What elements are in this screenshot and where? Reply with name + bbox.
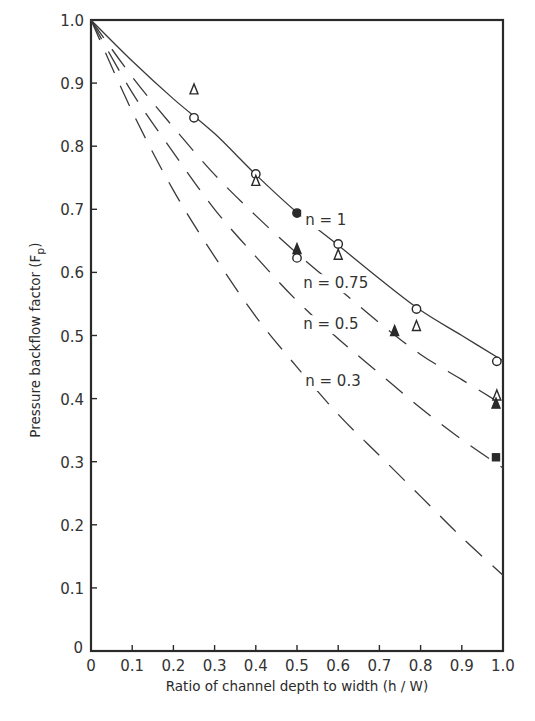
y-tick-label: 0.7 — [60, 201, 84, 219]
x-axis-title: Ratio of channel depth to width (h / W) — [166, 678, 428, 694]
curve-label: n = 0.75 — [303, 274, 368, 292]
open-triangle-marker — [190, 84, 198, 94]
x-axis-ticks: 00.10.20.30.40.50.60.70.80.91.0 — [86, 645, 515, 675]
y-tick-label: 0.8 — [60, 138, 84, 156]
curve-n1 — [91, 20, 503, 361]
y-axis-title-close: ) — [27, 242, 43, 247]
y-tick-label: 0.4 — [60, 391, 84, 409]
filled-circle-marker — [293, 209, 301, 217]
x-tick-label: 0.1 — [120, 657, 144, 675]
x-tick-label: 0.5 — [285, 657, 309, 675]
filled-triangle-marker — [391, 326, 399, 336]
curve-label: n = 0.3 — [305, 372, 360, 390]
y-tick-label: 0.3 — [60, 454, 84, 472]
curves — [91, 20, 503, 575]
curve-label: n = 0.5 — [303, 315, 358, 333]
open-circle-marker — [190, 114, 198, 122]
y-axis-title-subscript: p — [34, 248, 47, 255]
y-tick-label: 0.1 — [60, 580, 84, 598]
y-tick-label: 0.9 — [60, 75, 84, 93]
open-circle-marker — [334, 240, 342, 248]
y-tick-label: 0.5 — [60, 328, 84, 346]
x-tick-label: 0.2 — [161, 657, 185, 675]
filled-square-marker — [492, 454, 499, 461]
x-tick-label: 0.7 — [367, 657, 391, 675]
x-tick-label: 1.0 — [491, 657, 515, 675]
data-markers — [190, 84, 501, 461]
y-tick-label: 0.6 — [60, 264, 84, 282]
open-circle-marker — [493, 357, 501, 365]
y-tick-label: 0.2 — [60, 517, 84, 535]
x-tick-label: 0 — [86, 657, 96, 675]
y-axis-title: Pressure backflow factor (Fp) — [27, 242, 47, 437]
open-triangle-marker — [334, 249, 342, 259]
y-axis-title-main: Pressure backflow factor (F — [27, 255, 43, 438]
x-tick-label: 0.8 — [409, 657, 433, 675]
x-tick-label: 0.3 — [203, 657, 227, 675]
x-tick-label: 0.9 — [450, 657, 474, 675]
open-triangle-marker — [412, 321, 420, 331]
plot-frame — [91, 20, 503, 651]
curve-label: n = 1 — [305, 211, 346, 229]
y-tick-label: 0 — [73, 639, 83, 657]
x-tick-label: 0.4 — [244, 657, 268, 675]
curve-n0-3 — [91, 20, 503, 575]
open-circle-marker — [412, 305, 420, 313]
filled-triangle-marker — [293, 244, 301, 254]
open-circle-marker — [293, 254, 301, 262]
x-tick-label: 0.6 — [326, 657, 350, 675]
chart: 00.10.20.30.40.50.60.70.80.91.0 00.10.20… — [0, 0, 535, 721]
y-tick-label: 1.0 — [60, 12, 84, 30]
curve-labels: n = 1n = 0.75n = 0.5n = 0.3 — [299, 211, 371, 391]
